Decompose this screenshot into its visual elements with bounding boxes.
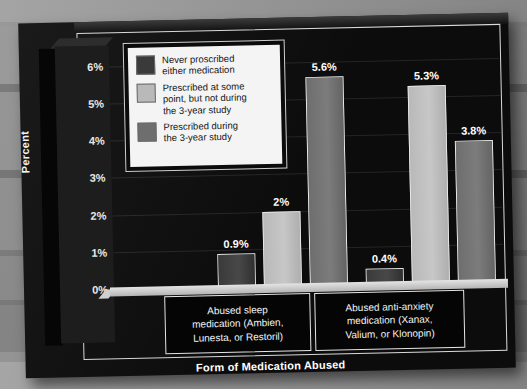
y-tick-label-2: 2% [90, 209, 106, 221]
bar-face [409, 86, 449, 282]
y-axis-title: Percent [19, 131, 32, 174]
bar-value-label: 5.3% [414, 69, 439, 82]
category-label-1: Abused sleepmedication (Ambien,Lunesta, … [192, 303, 284, 345]
legend-swatch-3 [137, 122, 156, 141]
screenshot-root: Percent 6%5%4%3%2%1%0% 0.9%2%5.6%0.4%5.3… [0, 0, 527, 389]
legend-label-2: Prescribed at somepoint, but not duringt… [163, 80, 248, 116]
bar-g2-s2 [408, 85, 450, 283]
legend: Never proscribedeither medicationPrescri… [123, 40, 288, 173]
y-tick-label-5: 5% [88, 97, 104, 109]
legend-item-2: Prescribed at somepoint, but not duringt… [137, 80, 275, 117]
bar-value-label: 0.9% [223, 237, 248, 250]
bar-face [263, 212, 301, 285]
y-tick-label-1: 1% [91, 246, 107, 258]
bar-value-label: 5.6% [312, 60, 337, 73]
y-tick-label-3: 3% [90, 172, 106, 184]
category-label-2: Abused anti-anxietymedication (Xanax,Val… [345, 300, 435, 342]
bar-face [218, 254, 255, 286]
legend-swatch-2 [137, 83, 156, 102]
legend-body: Never proscribedeither medicationPrescri… [128, 45, 283, 167]
bar-g1-s3 [305, 76, 348, 285]
y-tick-label-6: 6% [87, 60, 103, 72]
bar-g1-s2 [262, 211, 302, 286]
y-axis-block [55, 45, 115, 343]
y-tick-label-4: 4% [89, 135, 105, 147]
bar-face [306, 77, 346, 284]
legend-item-1: Never proscribedeither medication [136, 52, 273, 78]
category-box-2: Abused anti-anxietymedication (Xanax,Val… [314, 290, 465, 351]
bar-value-label: 3.8% [461, 124, 486, 137]
bar-value-label: 2% [273, 195, 289, 207]
bar-g1-s1 [217, 253, 256, 287]
bar-g2-s3 [455, 140, 496, 282]
legend-item-3: Prescribed duringthe 3-year study [137, 119, 274, 145]
legend-label-1: Never proscribedeither medication [162, 53, 235, 77]
category-box-1: Abused sleepmedication (Ambien,Lunesta, … [164, 293, 311, 354]
bar-face [456, 141, 495, 281]
legend-label-3: Prescribed duringthe 3-year study [163, 120, 238, 144]
chart-panel: Percent 6%5%4%3%2%1%0% 0.9%2%5.6%0.4%5.3… [18, 13, 516, 379]
legend-swatch-1 [136, 55, 155, 74]
bar-value-label: 0.4% [372, 252, 397, 265]
